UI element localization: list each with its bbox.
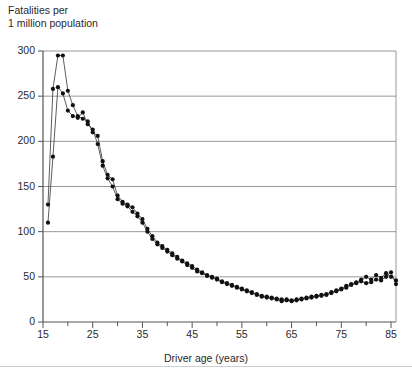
caption-divider xyxy=(0,366,412,367)
x-tick-label: 25 xyxy=(78,328,108,340)
y-tick-label: 300 xyxy=(5,44,35,56)
series-lines xyxy=(48,56,396,302)
y-tick-label: 200 xyxy=(5,134,35,146)
y-tick-label: 250 xyxy=(5,89,35,101)
x-axis-label: Driver age (years) xyxy=(0,352,412,364)
plot-area xyxy=(0,0,412,374)
x-tick-label: 45 xyxy=(177,328,207,340)
y-tick-label: 100 xyxy=(5,225,35,237)
x-tick-label: 75 xyxy=(326,328,356,340)
y-tick-label: 150 xyxy=(5,180,35,192)
y-tick-label: 50 xyxy=(5,270,35,282)
gridlines xyxy=(43,51,396,277)
x-tick-label: 85 xyxy=(376,328,406,340)
series-points xyxy=(46,53,398,303)
fatalities-by-driver-age-chart: Fatalities per 1 million population 0501… xyxy=(0,0,412,374)
y-tick-label: 0 xyxy=(5,315,35,327)
y-tick-marks xyxy=(38,51,43,322)
x-tick-label: 65 xyxy=(277,328,307,340)
x-tick-label: 15 xyxy=(28,328,58,340)
x-tick-label: 55 xyxy=(227,328,257,340)
x-tick-label: 35 xyxy=(127,328,157,340)
